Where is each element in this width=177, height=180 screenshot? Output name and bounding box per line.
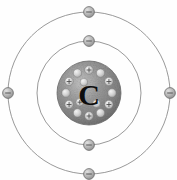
nucleus-group: C (57, 61, 121, 125)
neutron-particle (96, 69, 104, 77)
proton-particle (85, 112, 93, 120)
neutron-particle (62, 89, 70, 97)
neutron-particle (108, 89, 116, 97)
proton-particle (105, 77, 113, 85)
electron-2-1 (84, 7, 95, 18)
electron-1-1 (84, 36, 95, 47)
atom-diagram-canvas: C (0, 0, 177, 180)
proton-particle (105, 100, 113, 108)
atom-diagram: C (0, 0, 177, 180)
electron-2-4 (3, 88, 14, 99)
proton-particle (65, 77, 73, 85)
neutron-particle (73, 69, 81, 77)
electron-2-2 (165, 88, 176, 99)
proton-particle (85, 66, 93, 74)
electron-1-2 (84, 140, 95, 151)
proton-particle (65, 100, 73, 108)
element-symbol: C (78, 78, 100, 111)
electron-2-3 (84, 169, 95, 180)
